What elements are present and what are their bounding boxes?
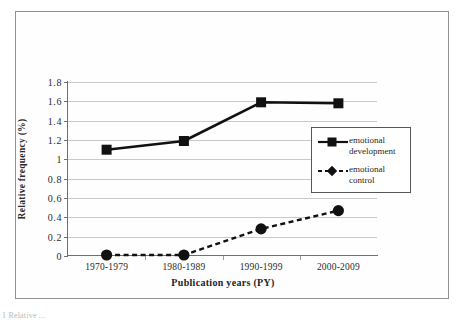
gridline: [68, 217, 377, 218]
y-tick-label: 1.8: [48, 77, 62, 88]
y-tick-label: 0.4: [48, 212, 62, 223]
legend-label-emotional-control: emotional control: [349, 164, 385, 186]
legend-label-line2: development: [349, 146, 396, 157]
gridline: [68, 237, 377, 238]
gridline: [68, 101, 377, 102]
x-tick-label: 1980-1989: [162, 262, 205, 272]
figure-page: 00.20.40.60.811.21.41.61.8 Relative freq…: [0, 0, 464, 325]
x-tick-mark: [223, 256, 224, 260]
legend-swatch-dashed-diamond-icon: [317, 165, 349, 177]
legend-item-emotional-control[interactable]: emotional control: [317, 164, 385, 186]
gridline: [68, 121, 377, 122]
y-tick-label: 1.4: [48, 115, 62, 126]
y-tick-label: 0.8: [48, 173, 62, 184]
x-tick-label: 2000-2009: [317, 262, 360, 272]
y-axis-title: Relative frequency (%): [17, 119, 27, 220]
x-tick-mark: [300, 256, 301, 260]
legend-swatch-solid-square-icon: [317, 136, 349, 148]
y-axis-line: [67, 81, 68, 257]
legend: emotional development emotional control: [311, 127, 411, 193]
y-tick-label: 1: [56, 154, 62, 165]
x-axis-title: Publication years (PY): [68, 277, 378, 288]
y-tick-label: 0.6: [48, 193, 62, 204]
legend-label-line1: emotional: [349, 135, 396, 146]
gridline: [68, 198, 377, 199]
caption-fragment: 1 Relative ...: [2, 311, 45, 320]
legend-label-line2: control: [349, 175, 385, 186]
legend-label-line1: emotional: [349, 164, 385, 175]
y-tick-label: 0: [56, 251, 62, 262]
legend-label-emotional-development: emotional development: [349, 135, 396, 157]
y-tick-label: 1.2: [48, 135, 62, 146]
legend-item-emotional-development[interactable]: emotional development: [317, 135, 396, 157]
x-tick-label: 1990-1999: [240, 262, 283, 272]
y-tick-label: 0.2: [48, 231, 62, 242]
y-tick-label: 1.6: [48, 96, 62, 107]
gridline: [68, 82, 377, 83]
x-tick-mark: [145, 256, 146, 260]
x-tick-label: 1970-1979: [85, 262, 128, 272]
